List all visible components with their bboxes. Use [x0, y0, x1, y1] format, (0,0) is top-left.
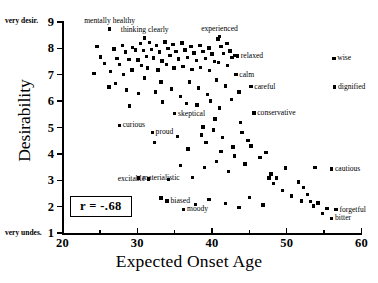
- data-point: [195, 103, 198, 106]
- data-point: [109, 70, 112, 73]
- data-point: [227, 170, 230, 173]
- data-point: [146, 66, 149, 69]
- y-tick-label: 8: [36, 41, 54, 56]
- data-point: [284, 166, 287, 169]
- x-tick-label: 40: [205, 236, 218, 251]
- data-point: [207, 46, 210, 49]
- data-point: [107, 85, 110, 88]
- data-point: [206, 93, 209, 96]
- data-point: [121, 44, 124, 47]
- data-point: [171, 43, 174, 46]
- data-point: [237, 206, 240, 209]
- data-point: [226, 64, 229, 67]
- data-point: [192, 51, 195, 54]
- data-point: [207, 198, 210, 201]
- data-point: [230, 98, 233, 101]
- data-point: [134, 48, 137, 51]
- data-point-labeled: [330, 217, 333, 220]
- data-point: [176, 135, 179, 138]
- data-point: [275, 176, 278, 179]
- y-tick-label: 5: [36, 120, 54, 135]
- y-tick-label: 3: [36, 173, 54, 188]
- data-point: [312, 204, 315, 207]
- data-point: [150, 48, 153, 51]
- data-point: [185, 102, 188, 105]
- data-point: [137, 92, 140, 95]
- data-point: [240, 131, 243, 134]
- data-point: [180, 41, 183, 44]
- data-point-labeled: [151, 131, 154, 134]
- data-point-labeled: [165, 199, 168, 202]
- data-point: [186, 56, 189, 59]
- data-point: [92, 72, 95, 75]
- data-point: [148, 41, 151, 44]
- data-point-labeled: [218, 35, 221, 38]
- point-label: relaxed: [241, 52, 263, 60]
- data-point: [321, 212, 324, 215]
- data-point: [198, 44, 201, 47]
- data-point: [177, 57, 180, 60]
- data-point: [168, 54, 171, 57]
- x-tick: [361, 228, 362, 233]
- data-point: [217, 61, 220, 64]
- x-tick-minor: [174, 230, 175, 233]
- data-point: [246, 139, 249, 142]
- data-point: [272, 182, 275, 185]
- data-point: [243, 162, 246, 165]
- data-point: [195, 59, 198, 62]
- data-point: [261, 203, 264, 206]
- data-point: [222, 52, 225, 55]
- data-point: [316, 201, 319, 204]
- data-point: [204, 141, 207, 144]
- x-tick-label: 50: [280, 236, 293, 251]
- data-point: [213, 117, 216, 120]
- data-point: [170, 87, 173, 90]
- point-label: experienced: [201, 25, 238, 33]
- data-point: [183, 48, 186, 51]
- point-label: skeptical: [178, 110, 205, 118]
- y-tick-label: 4: [36, 146, 54, 161]
- data-point: [269, 172, 272, 175]
- data-point: [209, 99, 212, 102]
- data-point: [163, 40, 166, 43]
- y-axis-low-endpoint-label: very undes.: [5, 228, 42, 237]
- correlation-annotation-box: r = -.68: [70, 196, 132, 217]
- x-tick: [62, 228, 63, 233]
- point-label: bitter: [335, 215, 351, 223]
- data-point: [203, 166, 206, 169]
- data-point: [122, 73, 125, 76]
- data-point: [249, 144, 252, 147]
- data-point: [118, 63, 121, 66]
- point-label: cautious: [335, 165, 360, 173]
- data-point: [188, 80, 191, 83]
- y-tick: [57, 127, 62, 128]
- y-axis-high-endpoint-label: very desir.: [5, 16, 38, 25]
- y-tick: [57, 100, 62, 101]
- data-point: [281, 189, 284, 192]
- data-point: [186, 147, 189, 150]
- point-label: forgetful: [339, 206, 365, 214]
- data-point: [142, 49, 145, 52]
- data-point-labeled: [234, 73, 237, 76]
- data-point: [297, 180, 300, 183]
- data-point: [264, 151, 267, 154]
- data-point: [224, 202, 227, 205]
- x-tick-minor: [323, 230, 324, 233]
- y-tick-label: 2: [36, 199, 54, 214]
- data-point-labeled: [332, 57, 335, 60]
- data-point: [145, 55, 148, 58]
- data-point: [155, 44, 158, 47]
- data-point: [290, 194, 293, 197]
- y-tick-label: 9: [36, 15, 54, 30]
- data-point: [248, 196, 251, 199]
- data-point: [130, 68, 133, 71]
- data-point: [221, 136, 224, 139]
- data-point: [208, 69, 211, 72]
- data-point: [213, 60, 216, 63]
- data-point: [219, 45, 222, 48]
- data-point: [159, 196, 162, 199]
- x-tick-minor: [249, 230, 250, 233]
- data-point: [204, 57, 207, 60]
- point-label: mentally healthy: [84, 17, 135, 25]
- data-point: [200, 133, 203, 136]
